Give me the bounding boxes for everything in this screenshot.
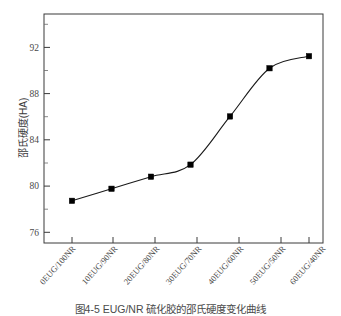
xtick-label-3: 30EUG/70NR: [164, 243, 204, 286]
xtick-label-6: 60EUG/40NR: [288, 243, 328, 286]
xtick-label-2: 20EUG/80NR: [122, 243, 162, 286]
ytick-label-88: 88: [30, 89, 40, 99]
data-point: [306, 53, 311, 58]
data-point: [148, 174, 153, 179]
xtick-label-4: 40EUG/60NR: [206, 243, 246, 286]
ytick-label-80: 80: [30, 181, 40, 191]
data-point: [69, 198, 74, 203]
figure-caption: 图4-5 EUG/NR 硫化胶的邵氏硬度变化曲线: [0, 303, 341, 316]
ytick-label-76: 76: [30, 228, 40, 238]
xtick-label-1: 10EUG/90NR: [80, 243, 120, 286]
data-point: [109, 186, 114, 191]
data-point: [227, 114, 232, 119]
ytick-label-84: 84: [30, 135, 40, 145]
line-chart: 76 80 84 88 92 邵氏硬度(HA) 0EUG/100NR 10EUG…: [0, 0, 341, 316]
xtick-label-0: 0EUG/100NR: [38, 243, 78, 286]
plot-frame: [44, 14, 323, 243]
figure-container: 76 80 84 88 92 邵氏硬度(HA) 0EUG/100NR 10EUG…: [0, 0, 341, 316]
data-point: [188, 162, 193, 167]
y-axis-label: 邵氏硬度(HA): [17, 98, 29, 159]
xtick-label-5: 50EUG/50NR: [248, 243, 288, 286]
ytick-label-92: 92: [30, 43, 40, 53]
data-point: [267, 66, 272, 71]
